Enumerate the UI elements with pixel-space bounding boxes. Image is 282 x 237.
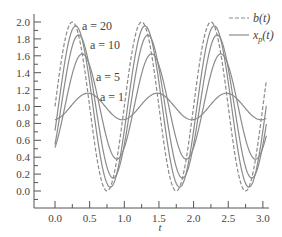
chart: 0.00.20.40.60.81.01.21.41.61.82.0 0.00.5… [0, 0, 282, 237]
label-a1: a = 1 [100, 90, 124, 104]
x-tick-label: 3.0 [256, 212, 270, 224]
y-tick-label: 0.2 [16, 168, 30, 180]
legend-label-xp: xp(t) [252, 28, 274, 44]
x-tick-label: 0.5 [83, 212, 97, 224]
x-tick-label: 2.5 [221, 212, 235, 224]
curve-xp-a10 [55, 35, 266, 178]
x-axis: 0.00.51.01.52.02.53.0 [34, 201, 270, 224]
y-tick-label: 0.0 [16, 185, 30, 197]
x-tick-label: 0.0 [48, 212, 62, 224]
y-tick-label: 0.8 [16, 117, 30, 129]
label-a20: a = 20 [82, 19, 112, 33]
y-tick-label: 1.0 [16, 101, 30, 113]
plot-curves [55, 22, 266, 191]
x-tick-label: 2.0 [187, 212, 201, 224]
label-a10: a = 10 [90, 38, 120, 52]
y-tick-label: 1.4 [16, 67, 30, 79]
legend: b(t) xp(t) [229, 11, 274, 44]
y-tick-label: 0.4 [16, 151, 30, 163]
legend-label-b: b(t) [253, 11, 270, 25]
y-tick-label: 0.6 [16, 134, 30, 146]
y-tick-label: 1.8 [16, 33, 30, 45]
y-axis: 0.00.20.40.60.81.01.21.41.61.82.0 [16, 14, 41, 208]
y-tick-label: 1.2 [16, 84, 30, 96]
y-tick-label: 2.0 [16, 16, 30, 28]
label-a5: a = 5 [96, 70, 120, 84]
x-tick-label: 1.0 [117, 212, 131, 224]
y-tick-label: 1.6 [16, 50, 30, 62]
